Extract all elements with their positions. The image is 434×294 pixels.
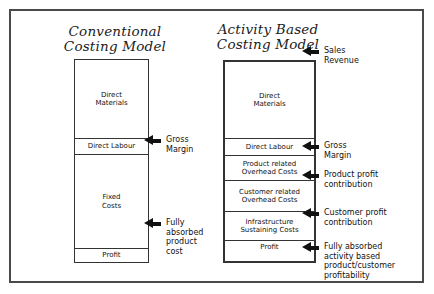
left-arrow-icon [144,135,161,146]
left-arrow-icon [302,170,319,181]
segment-product-related-overhead-costs: Product related Overhead Costs [225,155,314,180]
annotation-fully-absorbed-activity-based: Fully absorbed activity based product/cu… [302,241,395,280]
segment-direct-labour: Direct Labour [225,138,314,155]
annotation-customer-profit-contribution: Customer profit contribution [302,207,387,227]
segment-profit: Profit [225,240,314,254]
annotation-label: Fully absorbed product cost [166,217,203,256]
left-arrow-icon [302,242,319,253]
annotation-gross-margin-conventional: Gross Margin [144,134,193,154]
annotation-label: Fully absorbed activity based product/cu… [324,241,395,280]
segment-direct-labour: Direct Labour [75,138,148,154]
annotation-sales-revenue: Sales Revenue [302,45,359,65]
left-arrow-icon [144,218,161,229]
annotation-label: Gross Margin [324,140,351,160]
segment-direct-materials: Direct Materials [225,62,314,138]
segment-fixed-costs: Fixed Costs [75,154,148,248]
segment-direct-materials: Direct Materials [75,60,148,138]
diagram-frame: Conventional Costing Model Activity Base… [9,9,424,283]
annotation-fully-absorbed-product-cost: Fully absorbed product cost [144,217,203,256]
conventional-cost-stack: Direct Materials Direct Labour Fixed Cos… [74,59,149,263]
conventional-model-title: Conventional Costing Model [59,24,171,54]
segment-customer-related-overhead-costs: Customer related Overhead Costs [225,180,314,211]
left-arrow-icon [302,141,319,152]
diagram-page: Conventional Costing Model Activity Base… [0,0,434,294]
annotation-label: Sales Revenue [324,45,359,65]
activity-based-cost-stack: Direct Materials Direct Labour Product r… [223,60,316,263]
annotation-label: Customer profit contribution [324,207,387,227]
annotation-label: Gross Margin [166,134,193,154]
annotation-label: Product profit contribution [324,169,378,189]
annotation-gross-margin-abc: Gross Margin [302,140,351,160]
left-arrow-icon [302,208,319,219]
segment-infrastructure-sustaining-costs: Infrastructure Sustaining Costs [225,211,314,240]
segment-profit: Profit [75,248,148,262]
left-arrow-icon [302,46,319,57]
annotation-product-profit-contribution: Product profit contribution [302,169,378,189]
